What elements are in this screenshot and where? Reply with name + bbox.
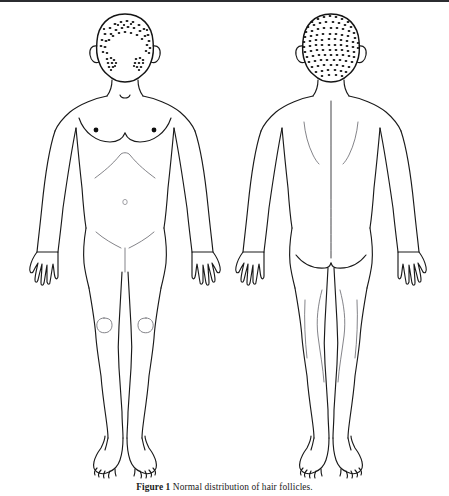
occipital-scalp-stipple [303,15,360,77]
anterior-left-ankle [105,438,108,450]
anterior-hip-left [84,228,89,288]
posterior-neck-left [313,80,318,96]
anterior-trunk-right [164,128,174,228]
right-nipple [152,128,157,133]
posterior-trunk-left [282,128,292,228]
posterior-right-foot [333,436,362,474]
figure-caption-text: Normal distribution of hair follicles. [173,482,313,492]
anterior-torso-outline-right [143,96,195,131]
anterior-body-view [30,14,221,478]
posterior-right-calf-contour [338,290,345,382]
anterior-right-arm-inner [174,128,192,252]
anterior-hip-right [161,228,166,288]
gluteal-crease-right [331,255,366,268]
anterior-torso-outline [55,96,107,131]
left-cheek-beard-patch [106,57,118,71]
posterior-left-arm-outer [243,131,261,252]
posterior-torso-outline-left [261,96,313,131]
inguinal-crease-right [129,232,154,248]
posterior-right-arm-inner [380,128,398,252]
posterior-torso-outline-right [349,96,401,131]
posterior-trunk-right [370,128,380,228]
anterior-left-arm-inner [58,128,76,252]
left-patella [97,318,112,333]
anterior-head-outline [97,14,154,82]
figure-container: Figure 1 Normal distribution of hair fol… [0,0,449,496]
figure-caption: Figure 1 Normal distribution of hair fol… [0,481,449,493]
anterior-trunk-left [76,128,86,228]
figure-number: Figure 1 [136,482,170,492]
left-scapula [304,122,319,164]
anterior-left-arm-outer [37,131,55,252]
costal-margin [95,153,155,178]
anterior-right-leg-inner [127,272,132,438]
anterior-left-hand [30,252,58,285]
right-patella [138,318,153,333]
anterior-neck-right [138,80,143,96]
posterior-left-arm-inner [264,128,282,252]
posterior-right-thigh-contour [355,300,357,358]
posterior-hip-right [367,228,372,288]
anterior-right-leg-outer [142,288,161,438]
anterior-left-foot [94,436,123,474]
gluteal-crease-left [296,255,331,268]
body-map-illustration [0,0,449,496]
posterior-left-thigh-contour [305,300,307,358]
anterior-right-hand [192,252,220,285]
posterior-right-ankle [348,438,351,450]
posterior-right-leg-inner [333,268,338,438]
posterior-neck-right [344,80,349,96]
inguinal-crease-left [96,232,121,248]
posterior-left-foot [300,436,329,474]
posterior-hip-left [290,228,295,288]
posterior-right-arm-outer [401,131,419,252]
anterior-right-arm-outer [195,131,213,252]
posterior-left-calf-contour [317,290,324,382]
anterior-left-leg-inner [118,272,123,438]
posterior-left-ankle [311,438,314,450]
pectoral-curve-right [125,118,171,142]
right-cheek-beard-patch [133,57,144,71]
posterior-left-hand [236,252,264,285]
pectoral-curve-left [79,118,125,142]
anterior-right-foot [127,436,156,474]
right-scapula [343,122,358,164]
navel [123,199,127,204]
anterior-right-ankle [142,438,145,450]
left-nipple [94,128,99,133]
anterior-left-leg-outer [89,288,108,438]
posterior-body-view [236,14,427,478]
posterior-left-leg-inner [324,268,329,438]
posterior-head-outline [303,14,360,82]
suprasternal-notch [120,95,130,98]
posterior-right-hand [398,252,426,285]
scalp-hairline-stipple [100,20,152,54]
anterior-neck-left [107,80,112,96]
